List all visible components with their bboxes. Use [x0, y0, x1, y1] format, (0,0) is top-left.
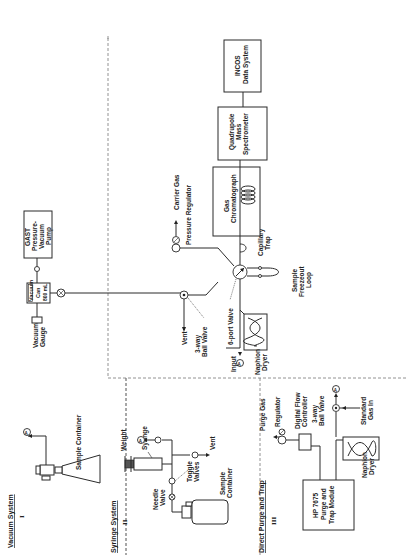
section-numeral-i: I [18, 515, 26, 518]
flow-controller-box [299, 434, 311, 450]
weight-icon [125, 460, 134, 468]
svg-text:Weight: Weight [120, 429, 128, 451]
svg-text:Pump: Pump [45, 227, 53, 245]
section-title-purge-trap: Direct Purge and Trap [258, 480, 266, 553]
label-sample-container: Sample Container [75, 414, 83, 470]
svg-text:Ball Valve: Ball Valve [201, 326, 208, 357]
svg-text:Can: Can [35, 287, 41, 298]
svg-text:800 mL: 800 mL [42, 284, 48, 301]
svg-text:Dryer: Dryer [368, 458, 376, 475]
svg-text:Needle: Needle [152, 488, 159, 510]
section-numeral-iii: III [270, 517, 278, 525]
svg-text:Carrier Gas: Carrier Gas [173, 174, 180, 210]
svg-text:Vacuum: Vacuum [32, 323, 39, 348]
svg-text:Purge Gas: Purge Gas [259, 398, 267, 431]
section-title-vacuum: Vacuum System [7, 494, 15, 548]
svg-text:Vent: Vent [209, 435, 216, 450]
svg-text:6-port Valve: 6-port Valve [227, 308, 235, 345]
svg-text:Spectrometer: Spectrometer [242, 113, 250, 155]
schematic-diagram: Vacuum System I A Sample Container Vacuu… [0, 0, 412, 559]
sample-cylinder-icon [192, 500, 228, 524]
analytical-train: Vent 3-way Ball Valve 6-port Valve A Inp… [172, 40, 313, 375]
svg-text:Purge and: Purge and [320, 488, 328, 520]
svg-text:Vacuum: Vacuum [38, 224, 45, 249]
svg-text:Data System: Data System [242, 45, 250, 84]
svg-text:HP 7675: HP 7675 [312, 492, 319, 518]
svg-text:Freezeout: Freezeout [298, 265, 305, 297]
svg-text:Input: Input [230, 355, 238, 372]
svg-text:Pressure-: Pressure- [31, 221, 38, 251]
toggle-valve-top-icon [155, 437, 161, 443]
svg-text:Gauge: Gauge [39, 326, 47, 347]
svg-text:Ball Valve: Ball Valve [318, 395, 325, 426]
svg-text:Trap Module: Trap Module [328, 485, 336, 524]
pressure-regulator-icon [172, 244, 180, 252]
svg-text:Pressure Regulator: Pressure Regulator [185, 185, 193, 245]
toggle-valve-vent-icon [192, 452, 198, 458]
svg-text:Container: Container [226, 467, 233, 498]
syringe-icon [134, 458, 162, 470]
svg-text:Chromatograph: Chromatograph [230, 174, 238, 223]
svg-text:Loop: Loop [305, 272, 313, 288]
svg-text:Vacuum: Vacuum [28, 280, 34, 301]
svg-text:INCOS: INCOS [234, 55, 241, 76]
vacuum-gauge-box [32, 317, 42, 323]
label-vent: Vent [181, 330, 188, 345]
check-valve-icon [35, 267, 40, 272]
section-syringe-system: Syringe System II Weight Syringe A Vent … [110, 426, 233, 553]
svg-text:Trap: Trap [264, 236, 272, 250]
svg-text:Dryer: Dryer [261, 354, 269, 371]
svg-text:Gas: Gas [223, 199, 230, 212]
section-title-syringe: Syringe System [110, 500, 118, 553]
svg-text:Gas In: Gas In [367, 400, 374, 420]
svg-text:Mass: Mass [235, 123, 242, 140]
purge-regulator-icon [278, 436, 286, 444]
section-numeral-ii: II [121, 519, 129, 525]
svg-text:GAST: GAST [24, 228, 31, 246]
nafion-dryer-main-box [244, 314, 267, 350]
svg-text:Valve: Valve [159, 489, 166, 506]
section-purge-and-trap: Direct Purge and Trap III Purge Gas Regu… [258, 386, 379, 554]
svg-text:Regulator: Regulator [274, 396, 282, 427]
svg-text:Controller: Controller [301, 395, 308, 427]
svg-text:Valves: Valves [193, 461, 200, 482]
toggle-valve-bottom-icon [169, 478, 175, 484]
cylinder-valve-icon [182, 506, 191, 518]
svg-text:Standard: Standard [360, 397, 367, 425]
